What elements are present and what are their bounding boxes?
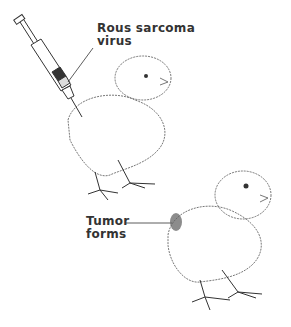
chick-injected-legs	[88, 160, 155, 200]
virus-label: Rous sarcoma virus	[97, 22, 195, 48]
virus-label-line2: virus	[97, 35, 195, 48]
chick-injected-icon	[68, 56, 171, 176]
chick-with-tumor-icon	[168, 171, 271, 282]
tumor-label-line2: forms	[86, 228, 130, 241]
tumor-label: Tumor forms	[86, 215, 130, 241]
chick-with-tumor-legs	[192, 270, 262, 310]
tumor-mass	[170, 213, 182, 231]
chick-injected-eye	[144, 74, 148, 78]
virus-pointer-line	[68, 48, 93, 82]
syringe-icon	[14, 14, 82, 117]
chick-with-tumor-eye	[244, 184, 249, 189]
diagram-canvas	[0, 0, 291, 327]
